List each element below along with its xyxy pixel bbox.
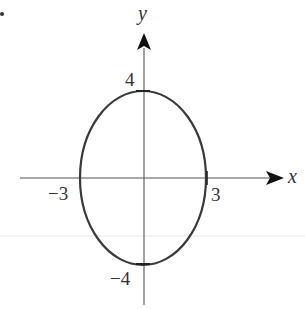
- bullet-mark: [0, 12, 4, 16]
- x-axis-label: x: [287, 165, 297, 187]
- ellipse-figure: y x 4 −4 −3 3: [0, 0, 305, 309]
- tick-label-x-3: 3: [211, 184, 221, 205]
- tick-label-y-4: 4: [125, 69, 135, 90]
- y-axis-arrow-icon: [137, 33, 151, 50]
- tick-label-x-neg3: −3: [48, 183, 68, 204]
- tick-label-y-neg4: −4: [110, 268, 131, 289]
- y-axis-label: y: [136, 2, 147, 25]
